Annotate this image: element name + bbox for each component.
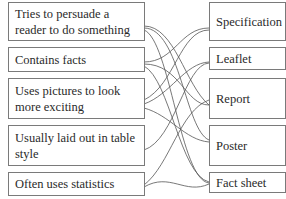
left-item-label: Uses pictures to look more exciting: [15, 83, 138, 115]
connector-line: [144, 28, 209, 62]
right-item-label: Fact sheet: [216, 175, 266, 191]
right-item-label: Report: [216, 91, 250, 107]
left-item-label: Contains facts: [15, 52, 86, 68]
right-item-label: Poster: [216, 138, 247, 154]
connector-line: [144, 28, 209, 140]
left-item-5[interactable]: Often uses statistics: [8, 172, 145, 196]
left-item-1[interactable]: Tries to persuade a reader to do somethi…: [8, 2, 145, 41]
right-item-label: Specification: [216, 14, 282, 30]
right-item-1[interactable]: Specification: [209, 2, 286, 41]
left-item-label: Usually laid out in table style: [15, 130, 138, 162]
right-item-5[interactable]: Fact sheet: [209, 172, 286, 193]
right-item-label: Leaflet: [216, 51, 251, 67]
left-item-2[interactable]: Contains facts: [8, 47, 145, 72]
connector-line: [144, 64, 209, 105]
connector-line: [144, 66, 209, 182]
left-item-label: Often uses statistics: [15, 176, 114, 192]
right-item-4[interactable]: Poster: [209, 125, 286, 166]
right-item-2[interactable]: Leaflet: [209, 47, 286, 70]
left-item-label: Tries to persuade a reader to do somethi…: [15, 6, 138, 38]
right-item-3[interactable]: Report: [209, 78, 286, 119]
left-item-3[interactable]: Uses pictures to look more exciting: [8, 78, 145, 119]
connector-line: [144, 182, 209, 187]
left-item-4[interactable]: Usually laid out in table style: [8, 125, 145, 166]
